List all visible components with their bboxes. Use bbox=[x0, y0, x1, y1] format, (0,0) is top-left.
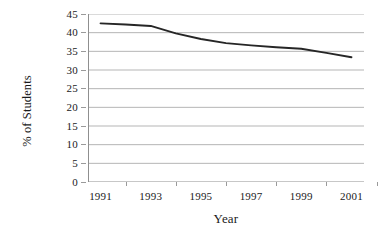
y-tick-mark bbox=[81, 107, 86, 108]
x-axis-ticks: 199119931995199719992001 bbox=[88, 182, 364, 208]
x-tick-mark bbox=[176, 182, 177, 186]
y-tick-mark bbox=[81, 144, 86, 145]
line-chart-figure: % of Students 051015202530354045 1991199… bbox=[0, 0, 384, 239]
y-tick-mark bbox=[81, 70, 86, 71]
gridlines bbox=[88, 14, 364, 182]
x-tick-mark bbox=[326, 182, 327, 186]
x-tick-mark bbox=[377, 182, 378, 186]
y-tick-label: 15 bbox=[18, 121, 78, 132]
y-tick-label: 0 bbox=[18, 177, 78, 188]
y-tick-label: 5 bbox=[18, 158, 78, 169]
y-tick-label: 10 bbox=[18, 139, 78, 150]
y-tick-mark bbox=[81, 88, 86, 89]
y-tick-mark bbox=[81, 14, 86, 15]
y-tick-label: 25 bbox=[18, 83, 78, 94]
y-tick-mark bbox=[81, 182, 86, 183]
y-tick-mark bbox=[81, 32, 86, 33]
data-line-series bbox=[101, 23, 352, 57]
y-tick-mark bbox=[81, 126, 86, 127]
x-tick-mark bbox=[226, 182, 227, 186]
y-tick-label: 45 bbox=[18, 9, 78, 20]
y-tick-label: 40 bbox=[18, 27, 78, 38]
x-tick-mark bbox=[276, 182, 277, 186]
y-tick-mark bbox=[81, 163, 86, 164]
y-tick-label: 30 bbox=[18, 65, 78, 76]
x-axis-title: Year bbox=[88, 211, 364, 227]
y-tick-label: 35 bbox=[18, 46, 78, 57]
plot-svg bbox=[88, 14, 364, 182]
y-tick-mark bbox=[81, 51, 86, 52]
y-tick-label: 20 bbox=[18, 102, 78, 113]
x-tick-mark bbox=[126, 182, 127, 186]
plot-area bbox=[88, 14, 364, 182]
y-axis-ticks: 051015202530354045 bbox=[0, 14, 86, 182]
x-tick-label: 2001 bbox=[321, 191, 381, 202]
